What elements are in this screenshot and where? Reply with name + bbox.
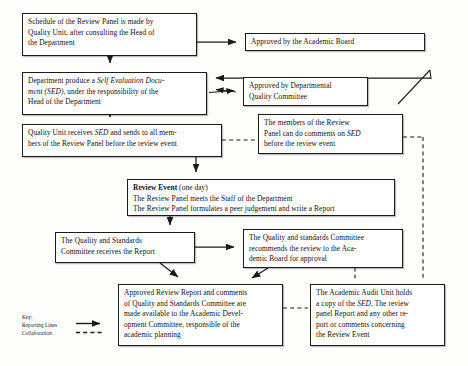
dept-qc-line-2: Quality Committee <box>249 92 363 103</box>
audit-line-3: panel Report and any other re- <box>316 309 440 320</box>
department-line-2: ment (SED), under the responsibility of … <box>28 87 202 98</box>
node-academic-audit-unit[interactable]: The Academic Audit Unit holds a copy of … <box>310 284 445 346</box>
members-line-3: before the review event <box>264 139 398 150</box>
approved-line-2: of Quality and Standards Committee are <box>124 299 278 310</box>
approved-line-4: opment Committee, responsible of the <box>124 320 278 331</box>
qsc-rec-line-1: The Quality and standards Committee <box>249 233 398 244</box>
node-quality-standards-committee-receives[interactable]: The Quality and Standards Committee rece… <box>55 232 195 263</box>
edge-department-to-dept-quality-committee <box>209 91 234 93</box>
edge-qsc-to-approved-report <box>160 263 178 277</box>
node-approved-review-report[interactable]: Approved Review Report and comments of Q… <box>118 284 283 346</box>
members-line-1: The members of the Review <box>264 118 398 129</box>
members-line-2: Panel can do comments on SED <box>264 129 398 140</box>
department-line-1: Department produce a Self Evaluation Doc… <box>28 76 202 87</box>
node-review-panel-members-comments[interactable]: The members of the Review Panel can do c… <box>258 114 403 154</box>
node-review-event[interactable]: Review Event (one day) The Review Panel … <box>127 179 395 216</box>
approved-line-5: academic planning <box>124 330 278 341</box>
dept-qc-line-1: Approved by Departmental <box>249 81 363 92</box>
edge-audit-return-to-department <box>398 70 430 104</box>
legend-collaboration-label: Collaboration <box>22 329 57 337</box>
approved-line-3: made available to the Academic Devel- <box>124 309 278 320</box>
edge-dept-quality-committee-to-department <box>216 90 236 93</box>
review-event-line-1: Review Event (one day) <box>133 183 390 194</box>
node-quality-unit-receives-sed[interactable]: Quality Unit receives SED and sends to a… <box>22 124 222 157</box>
approved-line-1: Approved Review Report and comments <box>124 288 278 299</box>
department-line-3: Head of the Department <box>28 97 202 108</box>
quality-unit-line-1: Quality Unit receives SED and sends to a… <box>28 128 217 139</box>
node-schedule[interactable]: Schedule of the Review Panel is made by … <box>22 13 197 56</box>
quality-unit-line-2: bers of the Review Panel before the revi… <box>28 139 217 150</box>
review-event-line-3: The Review Panel formulates a peer judge… <box>133 204 390 215</box>
legend: Key: Reporting Lines Collaboration <box>22 313 57 337</box>
schedule-line-2: Quality Unit, after consulting the Head … <box>28 28 192 39</box>
qsc-rec-line-3: demic Board for approval <box>249 254 398 265</box>
edge-qsc-recommends-to-approved-report <box>252 268 268 278</box>
legend-reporting-lines-label: Reporting Lines <box>22 321 57 329</box>
qsc-line-1: The Quality and Standards <box>61 236 190 247</box>
node-departmental-quality-committee[interactable]: Approved by Departmental Quality Committ… <box>243 77 368 106</box>
review-event-line-2: The Review Panel meets the Staff of the … <box>133 194 390 205</box>
academic-board-label: Approved by the Academic Board <box>251 37 420 48</box>
audit-line-5: the Review Event <box>316 330 440 341</box>
legend-title: Key: <box>22 313 57 321</box>
node-qsc-recommends-review[interactable]: The Quality and standards Committee reco… <box>243 229 403 268</box>
audit-line-1: The Academic Audit Unit holds <box>316 288 440 299</box>
qsc-rec-line-2: recommends the review to the Aca- <box>249 244 398 255</box>
node-academic-board[interactable]: Approved by the Academic Board <box>245 33 425 51</box>
schedule-line-1: Schedule of the Review Panel is made by <box>28 17 192 28</box>
audit-line-4: port or comments concerning <box>316 320 440 331</box>
qsc-line-2: Committee receives the Report <box>61 247 190 258</box>
audit-line-2: a copy of the SED, The review <box>316 299 440 310</box>
schedule-line-3: the Department <box>28 38 192 49</box>
node-department-produces-sed[interactable]: Department produce a Self Evaluation Doc… <box>22 72 207 115</box>
edge-return-top-segment <box>430 70 431 79</box>
flowchart-canvas: members of review panel (collaboration) … <box>0 0 468 366</box>
